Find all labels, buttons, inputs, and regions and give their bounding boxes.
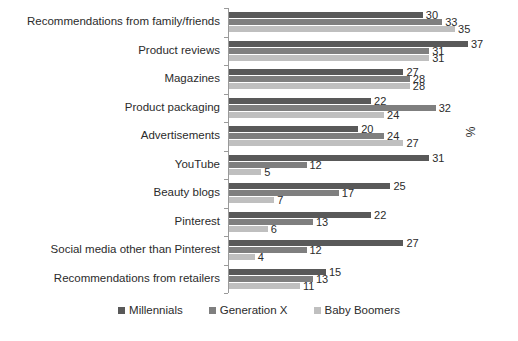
- bar-row: 12: [229, 162, 518, 168]
- bar-row: 17: [229, 190, 518, 196]
- category-label: Recommendations from family/friends: [27, 17, 220, 29]
- category-label: Social media other than Pinterest: [51, 245, 220, 257]
- axis-tick: [224, 208, 228, 209]
- chart-legend: MillennialsGeneration XBaby Boomers: [0, 305, 518, 317]
- bar-value-label: 24: [387, 109, 399, 120]
- legend-swatch-icon: [314, 307, 321, 314]
- legend-label: Baby Boomers: [325, 305, 400, 317]
- bar-value-label: 11: [303, 280, 314, 291]
- bar-row: 27: [229, 140, 518, 146]
- bar-row: 13: [229, 276, 518, 282]
- bar-2: [229, 169, 261, 175]
- bar-row: 28: [229, 76, 518, 82]
- axis-tick: [224, 8, 228, 9]
- bar-1: [229, 190, 339, 196]
- axis-tick: [224, 236, 228, 237]
- bar-row: 30: [229, 12, 518, 18]
- bar-row: 33: [229, 19, 518, 25]
- bar-0: [229, 126, 358, 132]
- bar-row: 4: [229, 254, 518, 260]
- bar-row: 31: [229, 55, 518, 61]
- bar-1: [229, 76, 410, 82]
- bar-row: 37: [229, 41, 518, 47]
- bar-value-label: 6: [271, 223, 277, 234]
- bar-0: [229, 183, 390, 189]
- bar-value-label: 28: [413, 81, 425, 92]
- bar-0: [229, 269, 326, 275]
- bar-row: 28: [229, 83, 518, 89]
- legend-item-millennials: Millennials: [118, 305, 183, 317]
- bar-1: [229, 133, 384, 139]
- category-label: Beauty blogs: [154, 188, 221, 200]
- bar-value-label: 5: [264, 166, 270, 177]
- axis-tick: [224, 37, 228, 38]
- bar-1: [229, 276, 313, 282]
- legend-label: Millennials: [129, 305, 183, 317]
- bar-value-label: 31: [432, 52, 444, 63]
- category-label: Product reviews: [138, 45, 220, 57]
- category-label: Product packaging: [125, 102, 220, 114]
- bar-0: [229, 212, 371, 218]
- bar-row: 25: [229, 183, 518, 189]
- bar-0: [229, 98, 371, 104]
- bar-row: 5: [229, 169, 518, 175]
- bar-value-label: 7: [277, 195, 283, 206]
- bar-row: 31: [229, 48, 518, 54]
- bar-0: [229, 12, 423, 18]
- bar-row: 32: [229, 105, 518, 111]
- axis-tick: [224, 94, 228, 95]
- axis-tick: [224, 122, 228, 123]
- bar-2: [229, 226, 268, 232]
- category-label: Advertisements: [141, 131, 220, 143]
- bar-row: 12: [229, 247, 518, 253]
- bar-row: 7: [229, 197, 518, 203]
- bar-2: [229, 112, 384, 118]
- bar-2: [229, 26, 455, 32]
- bar-row: 11: [229, 283, 518, 289]
- legend-item-generation-x: Generation X: [209, 305, 288, 317]
- grouped-bar-chart: Recommendations from family/friendsProdu…: [0, 0, 518, 341]
- bar-1: [229, 105, 436, 111]
- bar-row: 31: [229, 155, 518, 161]
- bar-row: 24: [229, 112, 518, 118]
- bar-1: [229, 48, 429, 54]
- bar-2: [229, 83, 410, 89]
- legend-item-baby-boomers: Baby Boomers: [314, 305, 400, 317]
- bar-row: 27: [229, 240, 518, 246]
- bar-row: 22: [229, 98, 518, 104]
- bar-0: [229, 69, 403, 75]
- bar-row: 35: [229, 26, 518, 32]
- bar-row: 6: [229, 226, 518, 232]
- category-label: YouTube: [175, 159, 220, 171]
- bar-row: 27: [229, 69, 518, 75]
- axis-tick: [224, 265, 228, 266]
- axis-tick: [224, 65, 228, 66]
- bar-row: 22: [229, 212, 518, 218]
- axis-tick: [224, 179, 228, 180]
- legend-label: Generation X: [220, 305, 288, 317]
- bar-value-label: 35: [458, 24, 470, 35]
- legend-swatch-icon: [118, 307, 125, 314]
- category-label: Recommendations from retailers: [54, 273, 220, 285]
- bar-0: [229, 155, 429, 161]
- legend-swatch-icon: [209, 307, 216, 314]
- axis-title-percent: %: [465, 127, 477, 138]
- axis-tick: [224, 151, 228, 152]
- category-label: Pinterest: [175, 216, 220, 228]
- bar-2: [229, 254, 255, 260]
- category-axis-labels: Recommendations from family/friendsProdu…: [0, 8, 224, 293]
- bar-2: [229, 197, 274, 203]
- bar-value-label: 4: [258, 252, 264, 263]
- bar-2: [229, 283, 300, 289]
- plot-area: 3033353731312728282232242024273112525177…: [228, 8, 518, 293]
- bar-1: [229, 19, 442, 25]
- bar-value-label: 27: [406, 138, 418, 149]
- bar-2: [229, 55, 429, 61]
- bar-row: 15: [229, 269, 518, 275]
- category-label: Magazines: [164, 74, 220, 86]
- axis-tick: [224, 293, 228, 294]
- bar-1: [229, 247, 307, 253]
- bar-2: [229, 140, 403, 146]
